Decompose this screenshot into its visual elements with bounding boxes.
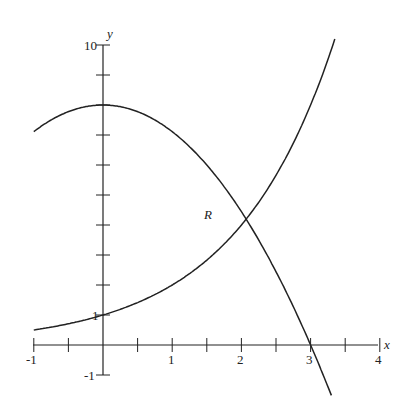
x-tick-label-2: 2: [237, 352, 244, 367]
exponential-curve: [34, 39, 335, 330]
y-tick-label-1: 1: [92, 308, 99, 323]
y-tick-label-neg1: -1: [84, 368, 95, 383]
graph-figure: x y -1 1 2 3 4 10 1 -1 R: [0, 0, 419, 400]
x-tick-label-3: 3: [306, 352, 313, 367]
y-axis-label: y: [105, 26, 113, 41]
parabola-curve: [34, 105, 332, 395]
x-tick-label-neg1: -1: [26, 352, 37, 367]
x-axis-label: x: [383, 337, 390, 352]
x-tick-label-1: 1: [168, 352, 175, 367]
y-tick-label-10: 10: [84, 38, 97, 53]
x-tick-label-4: 4: [375, 352, 382, 367]
region-label: R: [203, 207, 212, 222]
